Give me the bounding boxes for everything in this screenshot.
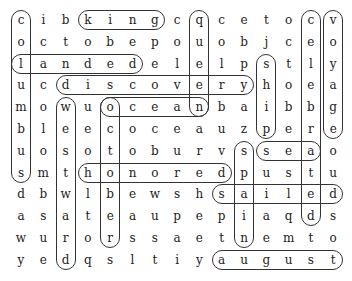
letter-cell[interactable]: b [233,31,255,53]
letter-cell[interactable]: c [278,31,300,53]
letter-cell[interactable]: o [77,140,99,162]
found-word-ship [256,54,276,139]
letter-cell[interactable]: m [278,227,300,249]
found-word-queen [189,10,209,117]
letter-cell[interactable]: s [32,205,54,227]
letter-cell[interactable]: b [99,31,121,53]
found-word-sea [256,141,321,161]
letter-cell[interactable]: o [122,140,144,162]
letter-cell[interactable]: u [166,140,188,162]
found-word-honored [78,163,232,183]
letter-cell[interactable]: s [322,205,344,227]
letter-cell[interactable]: t [144,249,166,271]
found-word-columbus [11,10,31,183]
letter-cell[interactable]: a [10,205,32,227]
found-word-landed [11,54,143,74]
letter-cell[interactable]: u [255,162,277,184]
letter-cell[interactable]: i [32,9,54,31]
letter-cell[interactable]: e [188,205,210,227]
letter-cell[interactable]: l [32,118,54,140]
letter-cell[interactable]: v [211,140,233,162]
letter-cell[interactable]: l [122,249,144,271]
found-word-sailed [212,184,344,204]
letter-cell[interactable]: z [233,118,255,140]
letter-cell[interactable]: d [10,183,32,205]
letter-cell[interactable]: p [144,31,166,53]
letter-cell[interactable]: p [233,53,255,75]
letter-cell[interactable]: j [255,31,277,53]
letter-cell[interactable]: p [166,205,188,227]
letter-cell[interactable]: e [144,53,166,75]
letter-cell[interactable]: u [144,205,166,227]
letter-cell[interactable]: o [32,96,54,118]
letter-cell[interactable]: o [322,227,344,249]
letter-cell[interactable]: t [211,227,233,249]
letter-cell[interactable]: s [122,227,144,249]
letter-cell[interactable]: q [278,205,300,227]
letter-cell[interactable]: u [32,227,54,249]
letter-cell[interactable]: c [32,74,54,96]
letter-cell[interactable]: t [278,53,300,75]
found-word-voyage [323,10,343,139]
letter-cell[interactable]: c [32,31,54,53]
letter-cell[interactable]: o [211,31,233,53]
found-word-westward [56,97,76,270]
letter-cell[interactable]: o [77,227,99,249]
found-word-king [78,10,165,30]
letter-cell[interactable]: a [255,205,277,227]
letter-cell[interactable]: c [144,118,166,140]
letter-cell[interactable]: b [278,96,300,118]
letter-cell[interactable]: l [211,53,233,75]
letter-cell[interactable]: h [188,183,210,205]
letter-cell[interactable]: p [211,205,233,227]
letter-cell[interactable]: o [77,31,99,53]
letter-cell[interactable]: y [10,249,32,271]
letter-cell[interactable]: c [166,9,188,31]
letter-cell[interactable]: a [188,118,210,140]
letter-cell[interactable]: l [166,53,188,75]
letter-cell[interactable]: u [211,118,233,140]
letter-cell[interactable]: a [166,227,188,249]
letter-cell[interactable]: o [166,31,188,53]
letter-cell[interactable]: y [188,249,210,271]
letter-cell[interactable]: o [122,118,144,140]
letter-cell[interactable]: e [122,31,144,53]
letter-cell[interactable]: o [278,74,300,96]
letter-cell[interactable]: e [166,118,188,140]
letter-cell[interactable]: e [77,118,99,140]
letter-cell[interactable]: w [144,183,166,205]
letter-cell[interactable]: t [255,9,277,31]
letter-cell[interactable]: b [144,140,166,162]
letter-cell[interactable]: s [166,183,188,205]
letter-cell[interactable]: a [122,205,144,227]
letter-cell[interactable]: u [322,162,344,184]
letter-cell[interactable]: l [77,183,99,205]
letter-cell[interactable]: s [278,162,300,184]
letter-cell[interactable]: u [77,96,99,118]
letter-cell[interactable]: o [322,140,344,162]
letter-cell[interactable]: t [300,227,322,249]
letter-cell[interactable]: q [77,249,99,271]
letter-cell[interactable]: t [77,205,99,227]
word-search-grid: cibkingcqcetocvoctobepouobjceolandedelel… [0,0,352,281]
letter-cell[interactable]: r [188,140,210,162]
letter-cell[interactable]: o [32,140,54,162]
letter-cell[interactable]: e [278,118,300,140]
letter-cell[interactable]: w [10,227,32,249]
letter-cell[interactable]: e [233,9,255,31]
letter-cell[interactable]: o [278,9,300,31]
letter-cell[interactable]: e [32,249,54,271]
letter-cell[interactable]: b [32,183,54,205]
letter-cell[interactable]: e [188,227,210,249]
letter-cell[interactable]: b [55,9,77,31]
letter-cell[interactable]: e [122,183,144,205]
letter-cell[interactable]: e [255,227,277,249]
letter-cell[interactable]: b [211,96,233,118]
letter-cell[interactable]: i [166,249,188,271]
letter-cell[interactable]: c [211,9,233,31]
letter-cell[interactable]: t [55,31,77,53]
letter-cell[interactable]: a [233,96,255,118]
letter-cell[interactable]: s [144,227,166,249]
letter-cell[interactable]: s [99,249,121,271]
letter-cell[interactable]: m [32,162,54,184]
